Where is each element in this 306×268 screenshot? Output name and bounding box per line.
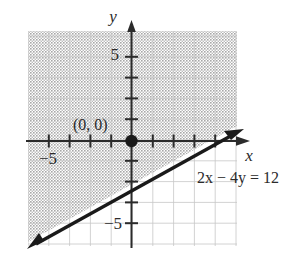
- figure-canvas: y x 5 −5 −5 (0, 0) 2x − 4y = 12: [0, 0, 306, 268]
- y-tick-label-5: 5: [111, 45, 120, 64]
- origin-point-marker: [125, 135, 137, 147]
- graph-svg: y x 5 −5 −5 (0, 0) 2x − 4y = 12: [0, 0, 306, 268]
- y-axis-label: y: [107, 7, 117, 26]
- origin-point-label: (0, 0): [73, 116, 108, 134]
- equation-label: 2x − 4y = 12: [197, 169, 279, 187]
- y-tick-label-neg5: −5: [104, 214, 122, 233]
- x-tick-label-neg5: −5: [39, 149, 57, 168]
- x-axis-label: x: [244, 146, 253, 165]
